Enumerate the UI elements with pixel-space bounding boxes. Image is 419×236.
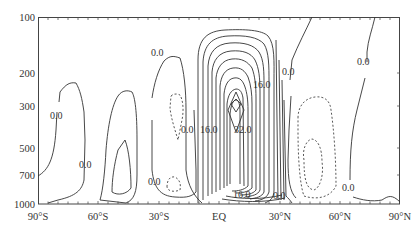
clabel-8: 16.0 xyxy=(233,189,251,200)
contour-neg-30s-lower xyxy=(167,177,180,191)
clabel-12: 0.0 xyxy=(342,182,355,193)
clabel-6: 16.0 xyxy=(253,79,271,90)
clabel-2: 0.0 xyxy=(151,47,164,58)
clabel-9: 0.0 xyxy=(273,190,286,201)
clabel-1: 0.0 xyxy=(79,159,92,170)
x-axis-labels: 90°S 60°S 30°S EQ 30°N 60°N 90°N xyxy=(28,211,412,222)
contour-lines xyxy=(38,17,400,203)
clabel-11: 0.0 xyxy=(357,56,370,67)
contour-labels: 0.0 0.0 0.0 0.0 0.0 16.0 16.0 32.0 16.0 … xyxy=(50,47,370,201)
contour-neg-45n-outer xyxy=(298,97,336,198)
contour-neg-45n-inner xyxy=(303,139,322,190)
y-tick-500: 500 xyxy=(19,143,35,154)
y-tick-100: 100 xyxy=(19,12,35,23)
y-tick-700: 700 xyxy=(19,170,35,181)
contour-eq-9 xyxy=(230,100,240,184)
contour-eq-1 xyxy=(198,30,274,203)
clabel-7: 32.0 xyxy=(234,124,252,135)
x-tick-60n: 60°N xyxy=(329,211,352,222)
y-tick-300: 300 xyxy=(19,101,35,112)
y-axis-labels: 100 200 300 500 700 1000 xyxy=(14,12,35,210)
contour-zero-90s xyxy=(38,83,85,203)
x-tick-eq: EQ xyxy=(212,211,226,222)
x-tick-30n: 30°N xyxy=(269,211,292,222)
x-tick-90s: 90°S xyxy=(28,211,49,222)
contour-zero-90n xyxy=(353,197,400,203)
contour-60s-outer xyxy=(100,91,137,203)
y-tick-1000: 1000 xyxy=(14,199,35,210)
contour-zero-30n xyxy=(288,17,312,198)
clabel-10: 0.0 xyxy=(282,66,295,77)
clabel-0: 0.0 xyxy=(50,110,63,121)
x-tick-60s: 60°S xyxy=(88,211,109,222)
contour-chart: 100 200 300 500 700 1000 90°S 60°S 30°S … xyxy=(0,0,419,236)
clabel-3: 0.0 xyxy=(148,176,161,187)
clabel-5: 16.0 xyxy=(200,124,218,135)
x-tick-30s: 30°S xyxy=(149,211,170,222)
x-tick-90n: 90°N xyxy=(389,211,412,222)
clabel-4: 0.0 xyxy=(181,124,194,135)
y-tick-200: 200 xyxy=(19,68,35,79)
contour-zero-60n xyxy=(350,17,375,180)
contour-60s-inner xyxy=(112,140,131,194)
contour-eq-2 xyxy=(203,36,269,201)
